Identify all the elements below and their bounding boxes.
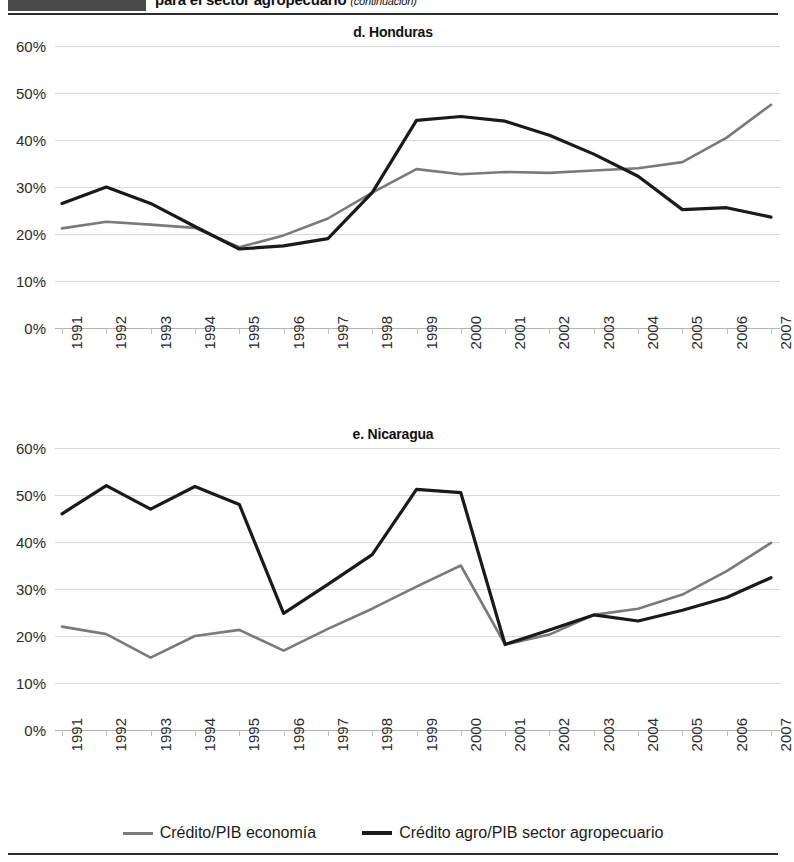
x-tick-label: 1996 — [290, 316, 307, 349]
x-axis-labels-honduras: 1991199219931994199519961997199819992000… — [55, 316, 780, 386]
y-tick-label: 20% — [16, 628, 46, 645]
x-tick-label: 2003 — [600, 718, 617, 751]
header-title-label: para el sector agropecuario — [155, 0, 346, 8]
x-tick-label: 2007 — [777, 718, 794, 751]
x-tick-label: 2006 — [733, 316, 750, 349]
series-line — [62, 105, 771, 247]
y-tick-label: 60% — [16, 440, 46, 457]
legend-item-credito-pib-economia: Crédito/PIB economía — [123, 824, 317, 842]
y-tick-label: 60% — [16, 38, 46, 55]
y-tick-label: 10% — [16, 273, 46, 290]
x-tick-label: 1992 — [112, 316, 129, 349]
x-tick-label: 2002 — [555, 718, 572, 751]
plot-area-nicaragua: 0%10%20%30%40%50%60% — [55, 448, 780, 730]
x-tick-label: 1992 — [112, 718, 129, 751]
x-tick-label: 1991 — [68, 316, 85, 349]
x-tick-label: 1999 — [423, 316, 440, 349]
x-tick-label: 2001 — [511, 316, 528, 349]
series-line — [62, 486, 771, 645]
x-tick-label: 1997 — [334, 718, 351, 751]
plot-area-honduras: 0%10%20%30%40%50%60% — [55, 46, 780, 328]
y-tick-label: 30% — [16, 179, 46, 196]
header-divider — [8, 13, 778, 15]
series-line — [62, 543, 771, 658]
x-tick-label: 2002 — [555, 316, 572, 349]
x-tick-label: 2005 — [688, 718, 705, 751]
y-axis-labels-honduras: 0%10%20%30%40%50%60% — [0, 46, 50, 328]
x-tick-label: 2004 — [644, 718, 661, 751]
series-lines-honduras — [55, 46, 780, 328]
footer-divider — [8, 853, 778, 855]
legend-line-icon-gray — [123, 832, 153, 835]
x-axis-labels-nicaragua: 1991199219931994199519961997199819992000… — [55, 718, 780, 788]
x-tick-label: 2006 — [733, 718, 750, 751]
y-tick-label: 40% — [16, 534, 46, 551]
x-tick-label: 1996 — [290, 718, 307, 751]
header-title-text: para el sector agropecuario (continuació… — [155, 0, 417, 8]
header-continuation-label: (continuación) — [350, 0, 416, 7]
legend-line-icon-black — [362, 831, 392, 835]
x-tick-label: 1995 — [245, 316, 262, 349]
x-tick-label: 1995 — [245, 718, 262, 751]
legend-label-credito-pib-economia: Crédito/PIB economía — [160, 824, 317, 842]
x-tick-label: 1994 — [201, 718, 218, 751]
x-tick-label: 2007 — [777, 316, 794, 349]
legend-label-credito-agro-pib-agro: Crédito agro/PIB sector agropecuario — [399, 824, 663, 842]
y-tick-label: 20% — [16, 226, 46, 243]
x-tick-label: 2000 — [467, 316, 484, 349]
x-tick-label: 1991 — [68, 718, 85, 751]
legend-item-credito-agro-pib-agro: Crédito agro/PIB sector agropecuario — [362, 824, 663, 842]
x-tick-label: 1994 — [201, 316, 218, 349]
y-tick-label: 10% — [16, 675, 46, 692]
chart-panel-honduras: d. Honduras 0%10%20%30%40%50%60% 1991199… — [0, 22, 786, 422]
x-tick-label: 1993 — [157, 316, 174, 349]
y-tick-label: 50% — [16, 487, 46, 504]
chart-legend: Crédito/PIB economía Crédito agro/PIB se… — [0, 818, 786, 848]
x-tick-label: 1999 — [423, 718, 440, 751]
chart-title-nicaragua: e. Nicaragua — [0, 424, 786, 444]
x-tick-label: 1993 — [157, 718, 174, 751]
x-tick-label: 2004 — [644, 316, 661, 349]
x-tick-label: 1997 — [334, 316, 351, 349]
chart-title-honduras: d. Honduras — [0, 22, 786, 42]
y-tick-label: 0% — [24, 320, 46, 337]
x-tick-label: 2001 — [511, 718, 528, 751]
y-tick-label: 50% — [16, 85, 46, 102]
y-axis-labels-nicaragua: 0%10%20%30%40%50%60% — [0, 448, 50, 730]
y-tick-label: 40% — [16, 132, 46, 149]
header-color-swatch — [8, 0, 146, 11]
x-tick-label: 2000 — [467, 718, 484, 751]
y-tick-label: 30% — [16, 581, 46, 598]
x-tick-label: 2005 — [688, 316, 705, 349]
series-lines-nicaragua — [55, 448, 780, 730]
x-tick-label: 1998 — [378, 718, 395, 751]
x-tick-label: 1998 — [378, 316, 395, 349]
x-tick-label: 2003 — [600, 316, 617, 349]
page-running-header: para el sector agropecuario (continuació… — [0, 0, 786, 16]
series-line — [62, 117, 771, 250]
y-tick-label: 0% — [24, 722, 46, 739]
chart-panel-nicaragua: e. Nicaragua 0%10%20%30%40%50%60% 199119… — [0, 424, 786, 814]
